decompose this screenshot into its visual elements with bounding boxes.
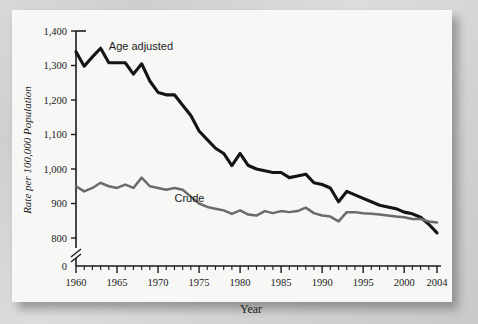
x-tick-label: 1965	[107, 277, 128, 288]
series-line-age-adjusted	[76, 48, 437, 233]
y-axis-title: Rate per 100,000 Population	[21, 86, 33, 215]
ticks-group	[71, 31, 437, 273]
y-tick-label: 900	[51, 198, 67, 209]
line-chart: 1,4001,3001,2001,1001,0009008000 1960196…	[0, 0, 478, 324]
series-label-age-adjusted: Age adjusted	[109, 40, 173, 52]
y-tick-label: 1,100	[43, 129, 67, 140]
x-tick-label: 1985	[271, 277, 292, 288]
x-tick-label: 2000	[394, 277, 415, 288]
figure-container: 1,4001,3001,2001,1001,0009008000 1960196…	[0, 0, 478, 324]
series-line-crude	[76, 178, 437, 223]
x-tick-label: 1960	[66, 277, 87, 288]
y-tick-label: 1,200	[43, 95, 67, 106]
y-tick-label: 0	[62, 261, 67, 272]
series-annotations: Age adjustedCrude	[109, 40, 205, 204]
y-tick-label: 800	[51, 233, 67, 244]
series-label-crude: Crude	[174, 192, 204, 204]
x-tick-label: 1995	[353, 277, 374, 288]
y-tick-label: 1,000	[43, 164, 67, 175]
y-tick-labels: 1,4001,3001,2001,1001,0009008000	[43, 26, 67, 272]
x-tick-label: 1975	[189, 277, 210, 288]
x-tick-label: 1990	[312, 277, 333, 288]
series-lines	[76, 48, 437, 233]
x-tick-label: 2004	[427, 277, 449, 288]
y-tick-label: 1,400	[43, 26, 67, 37]
x-tick-labels: 1960196519701975198019851990199520002004	[66, 277, 449, 288]
x-axis-title: Year	[240, 302, 262, 316]
x-tick-label: 1980	[230, 277, 251, 288]
x-tick-label: 1970	[148, 277, 169, 288]
y-tick-label: 1,300	[43, 60, 67, 71]
